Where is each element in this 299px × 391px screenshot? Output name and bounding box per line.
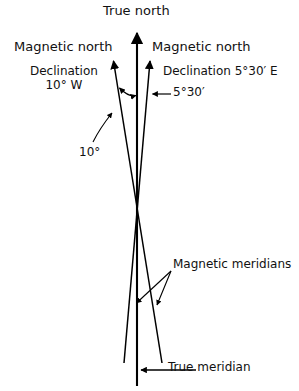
magnetic-meridians-label: Magnetic meridians xyxy=(173,258,291,272)
magnetic-north-left-label: Magnetic north xyxy=(14,40,113,55)
declination-east-label: Declination 5°30′ E xyxy=(163,65,278,79)
east-angle-label: 5°30′ xyxy=(173,86,205,100)
magnetic-meridians-leader-right xyxy=(157,271,171,305)
declination-west-label: Declination 10° W xyxy=(30,65,98,93)
magnetic-north-right-label: Magnetic north xyxy=(152,40,251,55)
declination-west-line2: 10° W xyxy=(30,79,98,93)
magnetic-meridians-leader-left xyxy=(137,271,172,303)
west-angle-label-leader xyxy=(93,113,112,142)
declination-west-line1: Declination xyxy=(30,64,98,78)
true-meridian-label: True meridian xyxy=(168,361,251,375)
true-north-label: True north xyxy=(103,4,170,19)
west-angle-arc xyxy=(120,88,137,96)
diagram-canvas xyxy=(0,0,299,391)
declination-diagram: True north Magnetic north Magnetic north… xyxy=(0,0,299,391)
west-angle-label: 10° xyxy=(79,146,100,160)
